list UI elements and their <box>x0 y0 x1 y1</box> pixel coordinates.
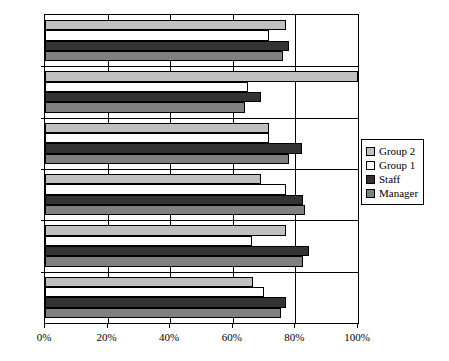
bar-m36-group-1 <box>45 236 252 246</box>
legend-swatch-icon-manager <box>366 189 375 198</box>
x-tick-60 <box>232 323 233 328</box>
bar-m36-group-2 <box>45 225 286 235</box>
bar-m34-group-1 <box>45 30 269 40</box>
category-separator <box>45 220 358 221</box>
bar-m5-group-2 <box>45 123 269 133</box>
x-tick-0 <box>44 323 45 328</box>
bar-m55-group-2 <box>45 71 358 81</box>
y-tick <box>41 169 45 170</box>
bar-m27-group-2 <box>45 277 253 287</box>
x-axis-label-0pct: 0% <box>37 331 52 343</box>
bar-m36-staff <box>45 246 309 256</box>
bar-m45-manager <box>45 205 305 215</box>
legend-swatch-icon-group1 <box>366 161 375 170</box>
category-separator <box>45 118 358 119</box>
legend-item-manager[interactable]: Manager <box>366 186 418 200</box>
bar-m34-staff <box>45 41 289 51</box>
y-tick <box>41 272 45 273</box>
legend-label: Group 1 <box>379 159 415 171</box>
bar-m55-manager <box>45 102 245 112</box>
chart-legend: Group 2Group 1StaffManager <box>361 139 424 205</box>
legend-item-staff[interactable]: Staff <box>366 172 418 186</box>
bar-m34-group-2 <box>45 20 286 30</box>
bar-chart: M34M55M5M45M36M270%20%40%60%80%100% Grou… <box>0 0 449 361</box>
legend-swatch-icon-staff <box>366 175 375 184</box>
bar-m34-manager <box>45 51 283 61</box>
bar-m5-group-1 <box>45 133 269 143</box>
bar-m36-manager <box>45 256 303 266</box>
bar-m55-group-1 <box>45 82 248 92</box>
bar-m5-staff <box>45 143 302 153</box>
bar-m5-manager <box>45 154 289 164</box>
legend-swatch-icon-group2 <box>366 147 375 156</box>
legend-label: Group 2 <box>379 145 415 157</box>
bar-m55-staff <box>45 92 261 102</box>
category-separator <box>45 169 358 170</box>
legend-label: Manager <box>379 187 418 199</box>
x-axis-label-60pct: 60% <box>222 331 242 343</box>
bar-m45-group-2 <box>45 174 261 184</box>
y-tick <box>41 220 45 221</box>
x-axis-label-40pct: 40% <box>159 331 179 343</box>
y-tick <box>41 66 45 67</box>
x-axis-label-20pct: 20% <box>97 331 117 343</box>
legend-item-group-1[interactable]: Group 1 <box>366 158 418 172</box>
legend-label: Staff <box>379 173 400 185</box>
x-tick-20 <box>107 323 108 328</box>
category-separator <box>45 272 358 273</box>
bar-m27-staff <box>45 297 286 307</box>
bar-m45-staff <box>45 195 303 205</box>
bar-m45-group-1 <box>45 184 286 194</box>
x-axis-label-100pct: 100% <box>344 331 370 343</box>
plot-area <box>44 14 359 324</box>
x-tick-40 <box>169 323 170 328</box>
category-separator <box>45 66 358 67</box>
x-tick-100 <box>357 323 358 328</box>
x-tick-80 <box>294 323 295 328</box>
x-axis-label-80pct: 80% <box>284 331 304 343</box>
bar-m27-group-1 <box>45 287 264 297</box>
legend-item-group-2[interactable]: Group 2 <box>366 144 418 158</box>
y-tick <box>41 118 45 119</box>
bar-m27-manager <box>45 308 281 318</box>
